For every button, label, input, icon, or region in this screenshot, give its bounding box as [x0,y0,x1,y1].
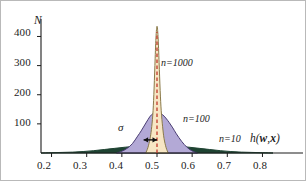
x-tick-label-0.8: 0.8 [253,160,267,171]
x-tick-label-0.4: 0.4 [109,160,123,171]
x-axis-label: h(w,x) [250,133,280,145]
y-tick-label-200: 200 [14,87,31,98]
y-tick-label-400: 400 [14,27,31,38]
x-tick-label-0.7: 0.7 [217,160,231,171]
series-label-n10: n=10 [219,134,241,144]
y-tick-label-300: 300 [14,57,31,68]
y-tick-label-100: 100 [14,117,31,128]
x-tick-label-0.6: 0.6 [181,160,195,171]
figure-container: N 400 300 200 100 0.2 0.3 0.4 0.5 0.6 0.… [0,0,306,181]
series-label-n1000: n=1000 [161,58,193,68]
distribution-plot [1,1,306,181]
y-axis-label: N [34,15,42,27]
sigma-label: σ [118,122,123,133]
x-tick-label-0.5: 0.5 [145,160,159,171]
series-label-n100: n=100 [183,114,210,124]
x-tick-label-0.3: 0.3 [73,160,87,171]
x-tick-label-0.2: 0.2 [37,160,51,171]
